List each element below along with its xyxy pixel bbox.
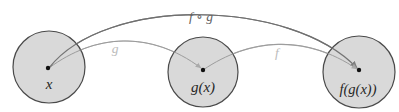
x-set-label: x	[46, 77, 53, 92]
gx-point	[201, 68, 205, 72]
arrow-f-label: f	[275, 46, 279, 60]
gx-set-label: g(x)	[191, 80, 215, 95]
fgx-point	[357, 68, 361, 72]
fgx-set-label: f(g(x))	[339, 82, 376, 97]
figure-canvas: x g(x) f(g(x)) g f f ∘ g	[0, 0, 399, 112]
arrow-f-compose-g-label: f ∘ g	[189, 10, 213, 24]
x-point	[46, 66, 50, 70]
arrow-g-label: g	[112, 42, 119, 56]
